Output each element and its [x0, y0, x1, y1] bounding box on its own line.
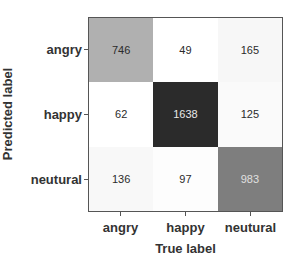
x-tick-mark	[185, 212, 186, 216]
heatmap-cell: 1638	[153, 82, 217, 146]
x-tick-label-angry: angry	[88, 220, 153, 235]
x-tick-mark	[120, 212, 121, 216]
x-tick-mark	[250, 212, 251, 216]
y-tick-label-angry: angry	[47, 42, 82, 57]
heatmap-cell: 983	[218, 147, 282, 211]
confusion-matrix-chart: Predicted label angry happy neutural 746…	[0, 0, 294, 269]
x-axis-label: True label	[88, 241, 283, 256]
heatmap-cell: 165	[218, 18, 282, 82]
heatmap-cell: 62	[89, 82, 153, 146]
x-tick-label-neutural: neutural	[218, 220, 283, 235]
heatmap-cell: 136	[89, 147, 153, 211]
y-tick-label-neutural: neutural	[31, 172, 82, 187]
heatmap-grid: 746 49 165 62 1638 125 136 97 983	[88, 17, 283, 212]
heatmap-cell: 125	[218, 82, 282, 146]
heatmap-cell: 97	[153, 147, 217, 211]
y-axis-label: Predicted label	[0, 68, 15, 160]
heatmap-cell: 49	[153, 18, 217, 82]
x-tick-label-happy: happy	[153, 220, 218, 235]
y-tick-label-happy: happy	[44, 107, 82, 122]
heatmap-cell: 746	[89, 18, 153, 82]
